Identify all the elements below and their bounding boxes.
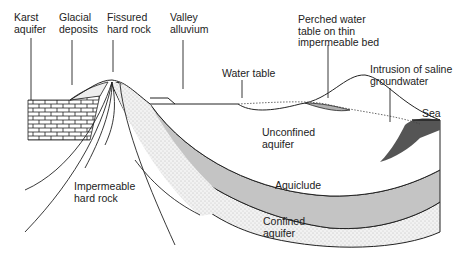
karst-block xyxy=(28,95,100,140)
label-fissured-hard-rock: Fissured hard rock xyxy=(107,12,151,35)
label-karst-aquifer: Karst aquifer xyxy=(14,12,46,35)
label-impermeable-hard-rock: Impermeable hard rock xyxy=(74,181,135,204)
label-glacial-deposits: Glacial deposits xyxy=(59,12,98,35)
cross-section-drawing xyxy=(0,0,467,260)
glacial-deposits xyxy=(70,82,108,100)
aquifer-diagram: Karst aquifer Glacial deposits Fissured … xyxy=(0,0,467,260)
label-valley-alluvium: Valley alluvium xyxy=(170,12,209,35)
label-perched-water-table: Perched water table on thin impermeable … xyxy=(298,14,379,49)
label-aquiclude: Aquiclude xyxy=(275,180,321,192)
label-water-table: Water table xyxy=(222,68,275,80)
label-confined-aquifer: Confined aquifer xyxy=(263,216,305,239)
label-sea: Sea xyxy=(422,108,441,120)
label-saline-intrusion: Intrusion of saline groundwater xyxy=(370,64,452,87)
label-unconfined-aquifer: Unconfined aquifer xyxy=(262,127,315,150)
